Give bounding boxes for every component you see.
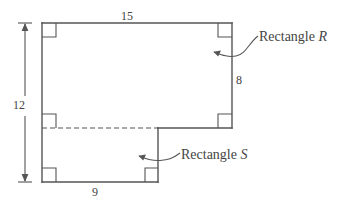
geometry-figure: 15 8 12 9 Rectangle R Rectangle S xyxy=(0,0,343,205)
callout-leader-s xyxy=(138,153,180,161)
dimension-arrowhead-top xyxy=(22,23,29,31)
right-angle-marker-top-left xyxy=(42,23,56,37)
dimension-label-bottom: 9 xyxy=(92,186,98,198)
dimension-label-left: 12 xyxy=(13,99,25,111)
right-angle-marker-top-right xyxy=(218,23,232,37)
callout-label-rectangle-s-prefix: Rectangle xyxy=(181,147,240,162)
callout-label-rectangle-s-name: S xyxy=(240,147,247,162)
callout-arrowhead-s xyxy=(138,155,146,161)
callout-label-rectangle-s: Rectangle S xyxy=(181,148,247,162)
right-angle-marker-mid-right xyxy=(218,114,232,128)
callout-label-rectangle-r-name: R xyxy=(318,29,327,44)
dimension-label-top: 15 xyxy=(121,10,133,22)
callout-leader-r-curve xyxy=(214,36,258,56)
right-angle-marker-mid-left xyxy=(42,114,56,128)
dimension-arrowhead-bottom xyxy=(22,174,29,182)
right-angle-marker-bottom-left xyxy=(42,168,56,182)
callout-label-rectangle-r-prefix: Rectangle xyxy=(259,29,318,44)
callout-leader-r xyxy=(213,36,258,57)
dimension-label-right: 8 xyxy=(236,74,242,86)
callout-label-rectangle-r: Rectangle R xyxy=(259,30,327,44)
callout-leader-s-curve xyxy=(139,153,180,161)
right-angle-marker-bottom-right xyxy=(145,168,158,182)
